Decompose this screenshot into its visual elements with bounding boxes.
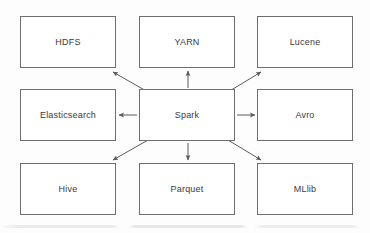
node-label-mllib: MLlib — [294, 185, 317, 194]
node-spark[interactable]: Spark — [139, 89, 235, 141]
spark-to-mllib — [228, 140, 261, 160]
node-label-hdfs: HDFS — [55, 38, 80, 47]
node-label-hive: Hive — [59, 185, 78, 194]
node-label-parquet: Parquet — [171, 185, 204, 194]
node-yarn[interactable]: YARN — [139, 16, 235, 68]
scan-noise-band — [0, 225, 370, 228]
node-label-lucene: Lucene — [290, 38, 321, 47]
node-elasticsearch[interactable]: Elasticsearch — [20, 89, 116, 141]
node-mllib[interactable]: MLlib — [257, 163, 353, 215]
node-hdfs[interactable]: HDFS — [20, 16, 116, 68]
node-label-avro: Avro — [295, 111, 314, 120]
node-label-spark: Spark — [175, 111, 200, 120]
node-hive[interactable]: Hive — [20, 163, 116, 215]
diagram-canvas: HDFS YARN Lucene Elasticsearch Spark Avr… — [0, 0, 370, 233]
node-lucene[interactable]: Lucene — [257, 16, 353, 68]
node-label-yarn: YARN — [174, 38, 199, 47]
node-avro[interactable]: Avro — [257, 89, 353, 141]
node-label-elasticsearch: Elasticsearch — [40, 111, 96, 120]
node-parquet[interactable]: Parquet — [139, 163, 235, 215]
spark-to-hive — [113, 140, 148, 160]
